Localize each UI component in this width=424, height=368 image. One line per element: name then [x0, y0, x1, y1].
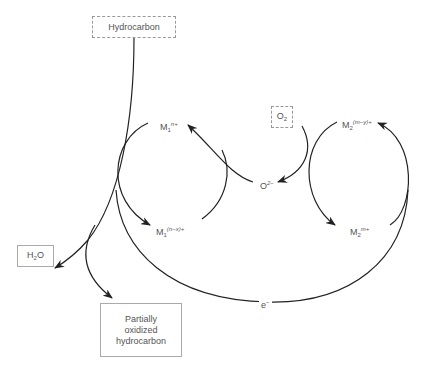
species-m1-high: M1n+: [160, 119, 178, 135]
electron-transfer-arc: [116, 190, 408, 302]
arrow-m2-oxidation: [309, 122, 337, 225]
arrow-m1-right-lower: [202, 150, 227, 219]
species-m2-low: M2(m−y)+: [342, 117, 372, 133]
diagram-canvas: [0, 0, 424, 368]
partial-line-1: Partially: [125, 314, 157, 325]
water-label: H2O: [27, 250, 44, 263]
arrow-electron-to-m2: [378, 123, 408, 225]
hydrocarbon-label: Hydrocarbon: [108, 22, 160, 32]
arrow-hydrocarbon-to-partial: [86, 225, 112, 298]
species-oxide-ion: O2−: [260, 178, 274, 191]
arrow-o2-to-oxide: [278, 126, 308, 182]
oxygen-box: O2: [271, 106, 293, 128]
water-box: H2O: [17, 245, 54, 267]
species-m1-low: M1(n−x)+: [156, 224, 184, 240]
species-m2-high: M2m+: [350, 224, 369, 240]
oxygen-label: O2: [277, 111, 287, 124]
hydrocarbon-box: Hydrocarbon: [92, 16, 176, 38]
partial-line-2: oxidized: [124, 325, 157, 336]
partial-line-3: hydrocarbon: [116, 336, 166, 347]
arrow-hydrocarbon-to-water: [55, 38, 134, 268]
arrow-m1-reduction: [118, 123, 150, 225]
partial-oxidized-box: Partially oxidized hydrocarbon: [100, 303, 182, 357]
arrow-oxide-to-m1: [188, 125, 253, 182]
species-electron: e−: [259, 297, 272, 310]
